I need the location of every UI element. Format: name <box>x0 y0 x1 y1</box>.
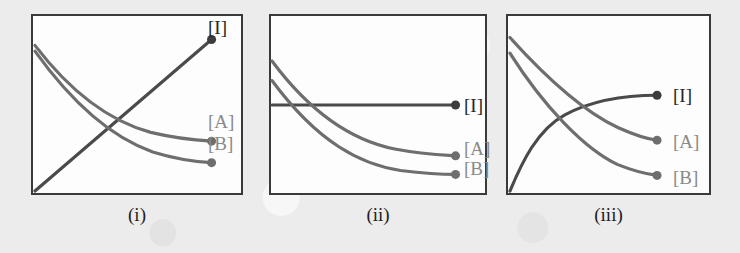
caption-iii: (iii) <box>506 204 711 226</box>
curve-iii-series-A <box>510 38 657 141</box>
label-ii-series-B: [B] <box>464 159 489 178</box>
endpoint-dot-iii-series-I <box>653 91 662 100</box>
caption-i: (i) <box>31 204 243 226</box>
curve-iii-series-B <box>510 53 657 175</box>
label-iii-series-B: [B] <box>673 168 698 187</box>
label-ii-series-A: [A] <box>464 139 490 158</box>
panel-ii-plot <box>271 16 485 193</box>
three-panel-kinetics-figure: [I] [A] [B] (i) [I] [A] [B] (ii) <box>0 0 740 253</box>
endpoint-dot-iii-series-A <box>653 136 662 145</box>
label-iii-series-A: [A] <box>673 132 699 151</box>
endpoint-dot-ii-series-A <box>451 151 460 160</box>
panel-ii <box>269 14 487 195</box>
label-i-series-A: [A] <box>208 112 234 131</box>
curve-i-series-B <box>35 51 212 162</box>
curve-i-series-A <box>35 45 212 141</box>
curve-ii-series-A <box>272 61 456 156</box>
panel-i <box>31 14 243 195</box>
endpoint-dot-i-series-B <box>207 158 216 167</box>
label-i-series-I: [I] <box>208 18 227 37</box>
label-i-series-B: [B] <box>208 134 233 153</box>
label-ii-series-I: [I] <box>464 96 483 115</box>
endpoint-dot-ii-series-B <box>451 170 460 179</box>
panel-i-plot <box>33 16 241 193</box>
label-iii-series-I: [I] <box>673 86 692 105</box>
endpoint-dot-ii-series-I <box>451 100 460 109</box>
curve-i-series-I <box>35 39 212 191</box>
caption-ii: (ii) <box>269 204 487 226</box>
endpoint-dot-iii-series-B <box>653 171 662 180</box>
